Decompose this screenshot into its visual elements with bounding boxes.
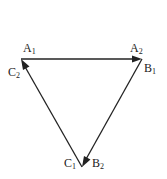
label-a1: A1 bbox=[23, 41, 36, 56]
arrowhead-c2-icon bbox=[21, 59, 30, 70]
triangle-diagram: A1 A2 C2 B1 C1 B2 bbox=[0, 0, 167, 179]
edge-c1-c2 bbox=[24, 65, 82, 167]
label-b2: B2 bbox=[92, 156, 104, 171]
label-c2: C2 bbox=[8, 65, 20, 80]
label-c1: C1 bbox=[64, 156, 76, 171]
arrowhead-b2-icon bbox=[82, 156, 91, 167]
edge-b1-b2 bbox=[85, 59, 142, 161]
label-a2: A2 bbox=[130, 41, 143, 56]
label-b1: B1 bbox=[144, 61, 156, 76]
